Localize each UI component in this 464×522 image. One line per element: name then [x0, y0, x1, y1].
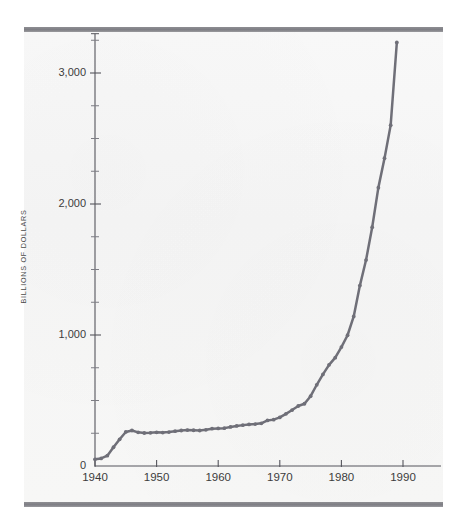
data-point-marker	[136, 430, 140, 434]
data-point-marker	[210, 427, 214, 431]
data-point-marker	[383, 156, 387, 160]
data-point-marker	[358, 284, 362, 288]
line-chart-plot	[0, 0, 464, 522]
data-point-marker	[93, 457, 97, 461]
data-point-marker	[333, 356, 337, 360]
data-point-marker	[346, 333, 350, 337]
data-point-marker	[253, 422, 257, 426]
data-point-marker	[376, 186, 380, 190]
y-tick-label: 2,000	[58, 197, 86, 209]
data-point-marker	[370, 225, 374, 229]
x-tick-label: 1990	[378, 471, 428, 483]
data-point-marker	[327, 363, 331, 367]
data-point-marker	[241, 423, 245, 427]
data-point-marker	[309, 394, 313, 398]
data-point-marker	[198, 429, 202, 433]
data-point-marker	[352, 315, 356, 319]
data-point-marker	[284, 412, 288, 416]
data-point-marker	[105, 454, 109, 458]
figure-container: BILLIONS OF DOLLARS 01,0002,0003,000 194…	[0, 0, 464, 522]
x-tick-label: 1950	[132, 471, 182, 483]
y-axis-label: BILLIONS OF DOLLARS	[19, 197, 28, 317]
data-point-marker	[99, 457, 103, 461]
data-point-marker	[130, 429, 134, 433]
data-point-marker	[173, 429, 177, 433]
data-point-marker	[204, 428, 208, 432]
data-point-marker	[142, 431, 146, 435]
debt-series-line	[95, 42, 397, 459]
data-point-marker	[161, 431, 165, 435]
data-point-marker	[296, 404, 300, 408]
y-tick-label: 3,000	[58, 66, 86, 78]
data-point-marker	[395, 41, 399, 45]
data-point-marker	[272, 418, 276, 422]
data-point-marker	[229, 425, 233, 429]
data-point-marker	[192, 428, 196, 432]
data-point-marker	[290, 408, 294, 412]
x-tick-label: 1980	[316, 471, 366, 483]
data-point-marker	[259, 421, 263, 425]
data-point-marker	[278, 416, 282, 420]
data-point-marker	[216, 427, 220, 431]
data-point-marker	[124, 430, 128, 434]
x-tick-label: 1960	[193, 471, 243, 483]
data-point-marker	[364, 258, 368, 262]
data-point-marker	[247, 423, 251, 427]
y-tick-label: 1,000	[58, 328, 86, 340]
data-point-marker	[167, 430, 171, 434]
data-point-marker	[340, 345, 344, 349]
data-point-marker	[186, 428, 190, 432]
data-point-marker	[118, 437, 122, 441]
x-tick-label: 1970	[255, 471, 305, 483]
y-tick-label: 0	[80, 459, 86, 471]
data-point-marker	[149, 431, 153, 435]
data-point-marker	[389, 123, 393, 127]
data-point-marker	[235, 424, 239, 428]
data-point-marker	[321, 373, 325, 377]
data-point-marker	[315, 383, 319, 387]
data-point-marker	[112, 445, 116, 449]
data-point-marker	[155, 430, 159, 434]
data-point-marker	[303, 402, 307, 406]
data-point-marker	[266, 419, 270, 423]
x-tick-label: 1940	[70, 471, 120, 483]
data-point-marker	[179, 429, 183, 433]
data-point-marker	[222, 426, 226, 430]
